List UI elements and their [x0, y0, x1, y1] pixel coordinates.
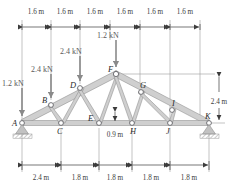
top-dim-label-3: 1.6 m	[87, 8, 104, 16]
top-dimension-labels: 1.6 m 1.6 m 1.6 m 1.6 m 1.6 m 1.6 m	[28, 8, 194, 16]
node-label-C: C	[57, 127, 63, 136]
vertical-dim-label-mid: 0.9 m	[107, 131, 124, 139]
top-dim-label-1: 1.6 m	[28, 8, 45, 16]
support-roller-K	[200, 125, 219, 139]
node-label-K: K	[204, 112, 211, 121]
load-label-F: 1.2 kN	[97, 31, 119, 40]
top-dim-label-2: 1.6 m	[57, 8, 74, 16]
node-D[interactable]	[78, 86, 83, 91]
node-label-B: B	[42, 96, 47, 105]
bottom-dim-label-1: 2.4 m	[33, 174, 50, 182]
member-bottom-chord	[22, 121, 209, 126]
node-label-F: F	[107, 65, 114, 74]
truss-members	[21, 71, 209, 126]
node-G[interactable]	[139, 90, 144, 95]
node-label-E: E	[87, 114, 93, 123]
node-H[interactable]	[130, 121, 135, 126]
node-label-G: G	[140, 81, 146, 90]
load-label-B: 2.4 kN	[31, 65, 53, 74]
node-B[interactable]	[49, 103, 54, 108]
node-J[interactable]	[168, 121, 173, 126]
node-label-A: A	[11, 119, 18, 128]
load-label-A: 1.2 kN	[2, 79, 24, 88]
node-label-H: H	[129, 127, 137, 136]
bottom-dim-label-3: 1.8 m	[107, 174, 124, 182]
top-dim-label-4: 1.6 m	[117, 8, 134, 16]
bottom-dimension-labels: 2.4 m 1.8 m 1.8 m 1.8 m 1.8 m	[33, 174, 198, 182]
node-C[interactable]	[59, 121, 64, 126]
bottom-dim-label-2: 1.8 m	[72, 174, 89, 182]
bottom-dim-label-5: 1.8 m	[181, 174, 198, 182]
truss-diagram-canvas: 1.6 m 1.6 m 1.6 m 1.6 m 1.6 m 1.6 m	[0, 0, 235, 183]
bottom-dimension-line	[22, 161, 209, 170]
node-I[interactable]	[170, 108, 175, 113]
node-F[interactable]	[113, 71, 118, 76]
node-E[interactable]	[97, 121, 102, 126]
truss-figure: 1.6 m 1.6 m 1.6 m 1.6 m 1.6 m 1.6 m	[0, 0, 235, 183]
bottom-dim-label-4: 1.8 m	[143, 174, 160, 182]
load-label-D: 2.4 kN	[60, 47, 82, 56]
node-label-D: D	[69, 81, 76, 90]
top-dimension-line	[22, 24, 200, 30]
vertical-dim-label-right: 2.4 m	[211, 98, 228, 106]
top-dim-label-5: 1.6 m	[147, 8, 164, 16]
top-dim-label-6: 1.6 m	[177, 8, 194, 16]
